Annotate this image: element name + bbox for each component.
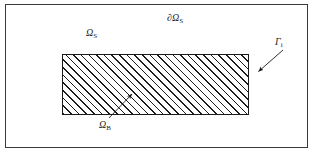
label-solid-domain: ΩS [86, 28, 97, 40]
body-domain-hatched-region [62, 54, 249, 115]
subscript-s: S [93, 32, 97, 40]
label-body-domain: ΩB [99, 120, 111, 132]
label-interface: Γi [275, 37, 283, 49]
domain-diagram: ∂ΩS ΩS ΩB Γi [0, 0, 314, 153]
label-outer-boundary: ∂ΩS [167, 13, 183, 25]
subscript-i: i [281, 41, 283, 49]
subscript-b: B [106, 124, 111, 132]
subscript-s: S [179, 17, 183, 25]
